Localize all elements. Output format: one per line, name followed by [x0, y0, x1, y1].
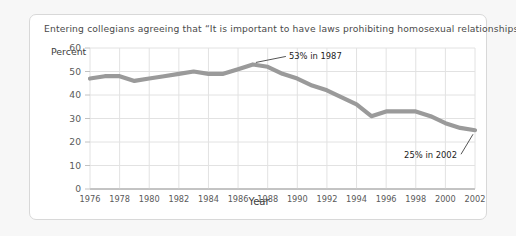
- svg-text:20: 20: [69, 136, 81, 147]
- page-background: Entering collegians agreeing that “It is…: [0, 0, 516, 236]
- data-series-line: [90, 64, 475, 130]
- peak-annotation-label: 53% in 1987: [289, 51, 342, 61]
- line-chart-svg: 0102030405060 19761978198019821984198619…: [30, 15, 488, 221]
- peak-leader-line: [256, 56, 286, 62]
- svg-text:40: 40: [69, 89, 81, 100]
- end-annotation-label: 25% in 2002: [404, 150, 457, 160]
- svg-text:60: 60: [69, 42, 81, 53]
- y-tick-labels: 0102030405060: [69, 42, 90, 194]
- svg-text:10: 10: [69, 160, 81, 171]
- x-axis-label: Year: [30, 196, 488, 207]
- end-leader-line: [461, 134, 473, 154]
- chart-plot-area: 0102030405060 19761978198019821984198619…: [30, 15, 488, 221]
- svg-text:50: 50: [69, 66, 81, 77]
- gridlines: [90, 48, 475, 189]
- annotation-layer: 53% in 1987 25% in 2002: [256, 51, 473, 160]
- svg-text:30: 30: [69, 113, 81, 124]
- chart-card: Entering collegians agreeing that “It is…: [29, 14, 487, 220]
